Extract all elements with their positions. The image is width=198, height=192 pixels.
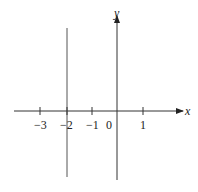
coordinate-plane: −3 −2 −1 0 1 x y — [0, 0, 198, 192]
tick-label-neg1: −1 — [86, 118, 99, 132]
tick-label-neg3: −3 — [34, 118, 47, 132]
tick-label-1: 1 — [140, 118, 146, 132]
tick-label-neg2: −2 — [60, 118, 73, 132]
origin-label: 0 — [106, 118, 112, 132]
y-axis-label: y — [113, 6, 120, 20]
x-axis-label: x — [184, 104, 191, 118]
